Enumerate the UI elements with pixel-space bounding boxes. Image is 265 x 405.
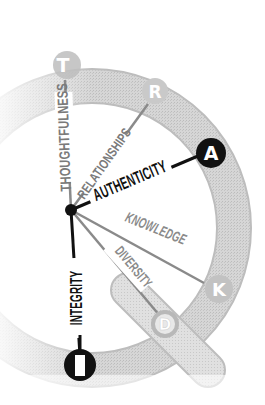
hub-dot <box>65 204 77 216</box>
node-letter-a: A <box>204 142 219 164</box>
node-d: D <box>151 310 179 338</box>
node-k: K <box>205 275 233 303</box>
node-letter-d: D <box>159 316 171 334</box>
node-letter-t: T <box>57 54 70 76</box>
node-letter-k: K <box>212 279 227 300</box>
node-t: T <box>53 51 81 79</box>
bottom-fade-overlay <box>0 375 265 405</box>
node-r: R <box>142 78 168 104</box>
node-letter-r: R <box>148 82 161 102</box>
node-letter-i <box>75 355 85 376</box>
trakdi-q-diagram: THOUGHTFULNESS RELATIONSHIPS AUTHENTICIT… <box>0 0 265 405</box>
node-a: A <box>196 138 226 168</box>
label-integrity: INTEGRITY <box>68 271 86 325</box>
left-fade-overlay <box>0 0 265 405</box>
